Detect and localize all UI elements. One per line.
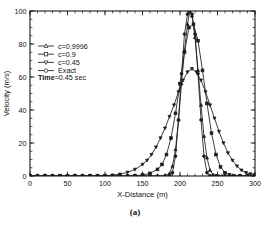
marker-circle [44, 69, 48, 73]
marker-circle [156, 175, 159, 178]
marker-circle [180, 72, 183, 75]
marker-triangle-down [208, 104, 211, 107]
series-line [30, 11, 255, 176]
marker-triangle-up [174, 148, 177, 151]
marker-triangle-down [217, 130, 220, 133]
marker-circle [149, 175, 152, 178]
marker-circle [171, 171, 174, 174]
series-c-0-45 [28, 68, 256, 178]
marker-triangle-down [244, 172, 247, 175]
marker-square [197, 39, 200, 42]
x-tick-label: 50 [64, 179, 72, 188]
marker-triangle-up [202, 135, 205, 138]
marker-circle [215, 175, 218, 178]
marker-triangle-down [213, 117, 216, 120]
y-tick-label: 100 [15, 7, 27, 16]
x-tick-label: 300 [249, 179, 261, 188]
figure-caption: (a) [130, 207, 141, 217]
marker-triangle-down [133, 168, 136, 171]
marker-circle [209, 175, 212, 178]
marker-circle [59, 175, 62, 178]
x-tick-label: 100 [99, 179, 111, 188]
marker-circle [134, 175, 137, 178]
marker-circle [141, 175, 144, 178]
marker-circle [239, 175, 242, 178]
marker-square [44, 52, 47, 55]
marker-circle [186, 13, 189, 16]
y-tick-label: 40 [19, 106, 27, 115]
marker-circle [191, 13, 194, 16]
y-tick-label: 20 [19, 139, 27, 148]
marker-square [210, 132, 213, 135]
x-tick-label: 250 [212, 179, 224, 188]
marker-triangle-up [44, 44, 48, 48]
marker-triangle-down [44, 61, 48, 65]
marker-triangle-down [177, 91, 180, 94]
marker-circle [164, 175, 167, 178]
marker-circle [254, 175, 257, 178]
marker-triangle-down [163, 127, 166, 130]
marker-circle [177, 118, 180, 121]
marker-square [219, 166, 222, 169]
marker-circle [44, 175, 47, 178]
marker-circle [168, 175, 171, 178]
marker-circle [89, 175, 92, 178]
marker-circle [212, 175, 215, 178]
marker-circle [183, 33, 186, 36]
marker-circle [188, 10, 191, 13]
y-tick-label: 80 [19, 40, 27, 49]
marker-triangle-down [172, 104, 175, 107]
marker-triangle-down [222, 142, 225, 145]
marker-triangle-down [240, 169, 243, 172]
marker-square [161, 163, 164, 166]
figure-panel: 050100150200250300020406080100X-Distance… [0, 0, 270, 228]
series-line [30, 69, 255, 176]
marker-circle [29, 175, 32, 178]
marker-triangle-down [249, 173, 252, 176]
marker-circle [104, 175, 107, 178]
x-tick-label: 0 [28, 179, 32, 188]
marker-circle [197, 72, 200, 75]
marker-triangle-down [204, 91, 207, 94]
velocity-vs-distance-chart: 050100150200250300020406080100X-Distance… [0, 0, 270, 228]
time-annotation-value: =0.45 sec [55, 73, 87, 82]
marker-square [206, 102, 209, 105]
marker-circle [200, 118, 203, 121]
marker-triangle-up [205, 156, 208, 159]
y-tick-label: 0 [23, 172, 27, 181]
series-c-0-9996 [28, 9, 256, 177]
marker-square [201, 69, 204, 72]
marker-square [170, 137, 173, 140]
marker-triangle-down [141, 163, 144, 166]
marker-circle [206, 171, 209, 174]
marker-square [165, 153, 168, 156]
marker-circle [119, 175, 122, 178]
plot-frame [30, 11, 255, 176]
time-annotation-bold: Time [38, 73, 55, 82]
x-axis-title: X-Distance (m) [117, 190, 168, 199]
marker-circle [203, 155, 206, 158]
series-line [30, 11, 255, 176]
marker-square [215, 153, 218, 156]
y-tick-label: 60 [19, 73, 27, 82]
x-tick-label: 150 [137, 179, 149, 188]
time-annotation: Time=0.45 sec [38, 73, 86, 82]
marker-square [224, 171, 227, 174]
chart-legend: c=0.9996c=0.9c=0.45Exact [38, 42, 88, 76]
y-axis-title: Velocity (m/s) [2, 70, 11, 116]
marker-circle [174, 155, 177, 158]
marker-triangle-down [168, 115, 171, 118]
series-exact [29, 10, 257, 178]
marker-triangle-down [126, 171, 129, 174]
marker-triangle-up [208, 169, 211, 172]
marker-square [174, 112, 177, 115]
marker-square [188, 26, 191, 29]
marker-triangle-down [199, 79, 202, 82]
marker-circle [194, 33, 197, 36]
x-tick-label: 200 [174, 179, 186, 188]
chart-canvas: 050100150200250300020406080100X-Distance… [0, 0, 270, 228]
marker-square [156, 168, 159, 171]
marker-circle [74, 175, 77, 178]
marker-circle [224, 175, 227, 178]
